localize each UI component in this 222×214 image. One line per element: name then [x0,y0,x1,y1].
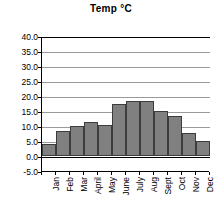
y-tick-label: 15.0 [2,108,38,116]
x-tick-mark [41,172,42,175]
bar-dec [196,141,210,156]
x-tick-label-jan: Jan [52,177,61,191]
x-tick-mark [69,172,70,175]
bar-june [112,104,126,156]
chart-title: Temp °C [0,3,222,14]
bar-nov [182,133,196,156]
y-tick-label: 10.0 [2,123,38,131]
y-tick-label: 35.0 [2,48,38,56]
x-tick-mark [209,172,210,175]
gridline [42,82,210,83]
y-tick-label: 30.0 [2,63,38,71]
y-tick-label: 20.0 [2,93,38,101]
gridline [42,52,210,53]
y-tick-label: 40.0 [2,33,38,41]
temperature-bar-chart: Temp °C 40.035.030.025.020.015.010.05.00… [0,0,222,214]
y-tick-label: -5.0 [2,168,38,176]
bar-oct [168,116,182,156]
x-tick-mark [181,172,182,175]
x-tick-mark [83,172,84,175]
gridline [42,97,210,98]
x-tick-mark [55,172,56,175]
x-tick-mark [97,172,98,175]
bar-april [84,122,98,156]
x-tick-mark [139,172,140,175]
x-tick-mark [111,172,112,175]
gridline [42,67,210,68]
gridline [42,37,210,38]
x-tick-label-july: July [136,177,145,192]
y-tick-label: 25.0 [2,78,38,86]
x-tick-label-april: April [94,177,103,194]
plot-area [41,37,209,172]
x-tick-label-sept: Sept [164,177,173,195]
bar-july [126,101,140,156]
bar-aug [140,101,154,156]
x-tick-label-mar: Mar [80,177,89,192]
x-tick-mark [125,172,126,175]
gridline [42,157,210,158]
bar-sept [154,111,168,156]
x-tick-label-nov: Nov [192,177,201,192]
x-tick-label-oct: Oct [178,177,187,190]
x-tick-mark [153,172,154,175]
x-tick-label-june: June [122,177,131,195]
x-tick-label-feb: Feb [66,177,75,192]
y-tick-label: 0.0 [2,153,38,161]
x-tick-label-may: May [108,177,117,193]
x-tick-mark [167,172,168,175]
bar-jan [42,144,56,156]
bar-may [98,125,112,157]
x-tick-label-dec: Dec [206,177,215,192]
x-tick-mark [195,172,196,175]
x-tick-label-aug: Aug [150,177,159,192]
bar-mar [70,126,84,156]
bar-feb [56,131,70,156]
y-tick-label: 5.0 [2,138,38,146]
